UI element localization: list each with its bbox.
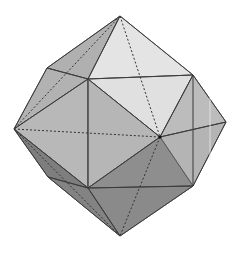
polyhedron-figure (0, 0, 237, 255)
faces (14, 16, 226, 236)
front-vertex-dot (158, 135, 161, 138)
polyhedron-svg (0, 0, 237, 255)
